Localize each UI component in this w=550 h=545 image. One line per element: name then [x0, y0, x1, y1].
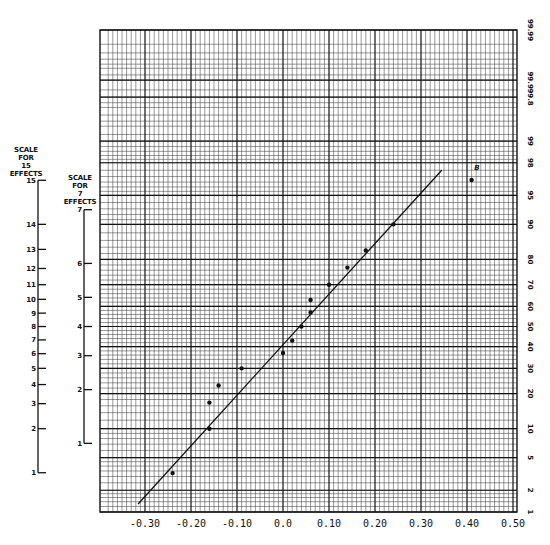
- scale-tick-label: 2: [77, 386, 82, 394]
- data-point: [216, 383, 220, 387]
- probability-tick-label: 50: [526, 322, 534, 332]
- data-point: [281, 351, 285, 355]
- scale-7-title-line: FOR: [62, 182, 98, 190]
- data-point: [290, 338, 294, 342]
- scale-7-title-line: SCALE: [62, 174, 98, 182]
- x-tick-label: 0.50: [501, 518, 525, 529]
- data-point: [207, 426, 211, 430]
- data-point: [391, 222, 395, 226]
- scale-15-title-line: SCALE: [8, 146, 44, 154]
- scale-tick-label: 4: [77, 323, 82, 331]
- x-tick-label: -0.10: [222, 518, 252, 529]
- scale-tick-label: 4: [31, 381, 36, 389]
- scale-15-title-line: FOR: [8, 154, 44, 162]
- scale-15-effects: 123456789101112131415: [26, 177, 46, 477]
- scale-tick-label: 13: [26, 246, 36, 254]
- probability-tick-label: 98: [526, 158, 534, 168]
- x-tick-label: -0.20: [176, 518, 206, 529]
- probability-tick-label: 99.9: [526, 71, 534, 88]
- data-point: [299, 324, 303, 328]
- data-point: [308, 298, 312, 302]
- scale-tick-label: 1: [31, 469, 36, 477]
- probability-tick-label: 30: [526, 363, 534, 373]
- probability-tick-label: 99.8: [526, 88, 534, 105]
- data-point: [345, 265, 349, 269]
- probability-tick-label: 60: [526, 301, 534, 311]
- scale-15-title-line: EFFECTS: [8, 170, 44, 178]
- scale-tick-label: 15: [26, 177, 36, 185]
- x-tick-label: 0.20: [363, 518, 387, 529]
- grid-major: [100, 30, 517, 512]
- scale-tick-label: 2: [31, 425, 36, 433]
- normal-probability-plot: -0.30-0.20-0.100.00.100.200.300.400.50 1…: [0, 0, 550, 545]
- scale-tick-label: 10: [26, 296, 36, 304]
- probability-tick-label: 70: [526, 280, 534, 290]
- scale-7-title-line: 7: [62, 190, 98, 198]
- data-point: [207, 400, 211, 404]
- scale-tick-label: 6: [77, 260, 82, 268]
- scale-tick-label: 5: [77, 294, 82, 302]
- x-axis-tick-labels: -0.30-0.20-0.100.00.100.200.300.400.50: [130, 518, 525, 529]
- scale-tick-label: 8: [31, 323, 36, 331]
- probability-tick-label: 2: [526, 488, 534, 493]
- probability-tick-label: 10: [526, 424, 534, 434]
- probability-tick-label: 40: [526, 342, 534, 352]
- data-point: [327, 283, 331, 287]
- scale-tick-label: 14: [26, 221, 36, 229]
- probability-tick-label: 95: [526, 190, 534, 200]
- fit-line: [138, 170, 442, 504]
- scale-tick-label: 6: [31, 350, 36, 358]
- x-tick-label: -0.30: [130, 518, 160, 529]
- scale-15-title-line: 15: [8, 162, 44, 170]
- scale-15-title: SCALE FOR 15 EFFECTS: [8, 146, 44, 178]
- scale-7-title: SCALE FOR 7 EFFECTS: [62, 174, 98, 206]
- data-point: [170, 471, 174, 475]
- data-point: [364, 248, 368, 252]
- plot-frame: [100, 30, 517, 512]
- point-annotation-b: B: [474, 164, 479, 172]
- scale-tick-label: 12: [26, 265, 36, 273]
- scale-tick-label: 11: [26, 281, 36, 289]
- x-tick-label: 0.10: [317, 518, 341, 529]
- x-tick-label: 0.0: [274, 518, 292, 529]
- grid-minor-vertical: [108, 30, 508, 512]
- probability-tick-label: 99.99: [526, 19, 534, 41]
- probability-tick-label: 1: [526, 510, 534, 515]
- probability-tick-label: 20: [526, 389, 534, 399]
- scale-tick-label: 5: [31, 365, 36, 373]
- scale-tick-label: 7: [31, 336, 36, 344]
- data-point: [239, 366, 243, 370]
- scale-tick-label: 7: [77, 206, 82, 214]
- probability-tick-label: 90: [526, 219, 534, 229]
- probability-tick-label: 80: [526, 255, 534, 265]
- probability-tick-label: 5: [526, 455, 534, 460]
- probability-axis-tick-labels: 12510203040506070809095989999.899.999.99: [526, 19, 534, 515]
- data-point: [469, 178, 473, 182]
- scale-tick-label: 3: [77, 352, 82, 360]
- scale-tick-label: 3: [31, 400, 36, 408]
- x-tick-label: 0.40: [455, 518, 479, 529]
- scale-7-title-line: EFFECTS: [62, 198, 98, 206]
- x-tick-label: 0.30: [409, 518, 433, 529]
- scale-7-effects: 1234567: [77, 206, 92, 448]
- scale-tick-label: 1: [77, 440, 82, 448]
- scale-tick-label: 9: [31, 310, 36, 318]
- probability-tick-label: 99: [526, 136, 534, 146]
- data-point: [308, 310, 312, 314]
- grid-minor-horizontal: [100, 44, 517, 506]
